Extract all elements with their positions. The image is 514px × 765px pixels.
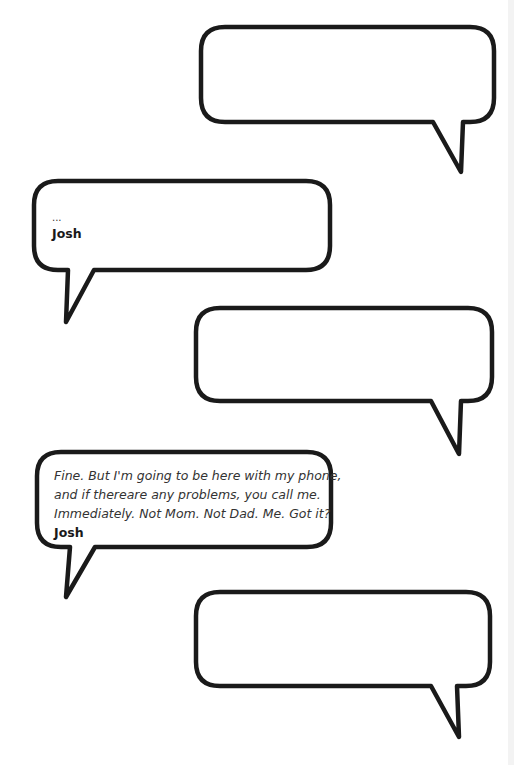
speech-bubble-shape-icon <box>0 0 514 765</box>
